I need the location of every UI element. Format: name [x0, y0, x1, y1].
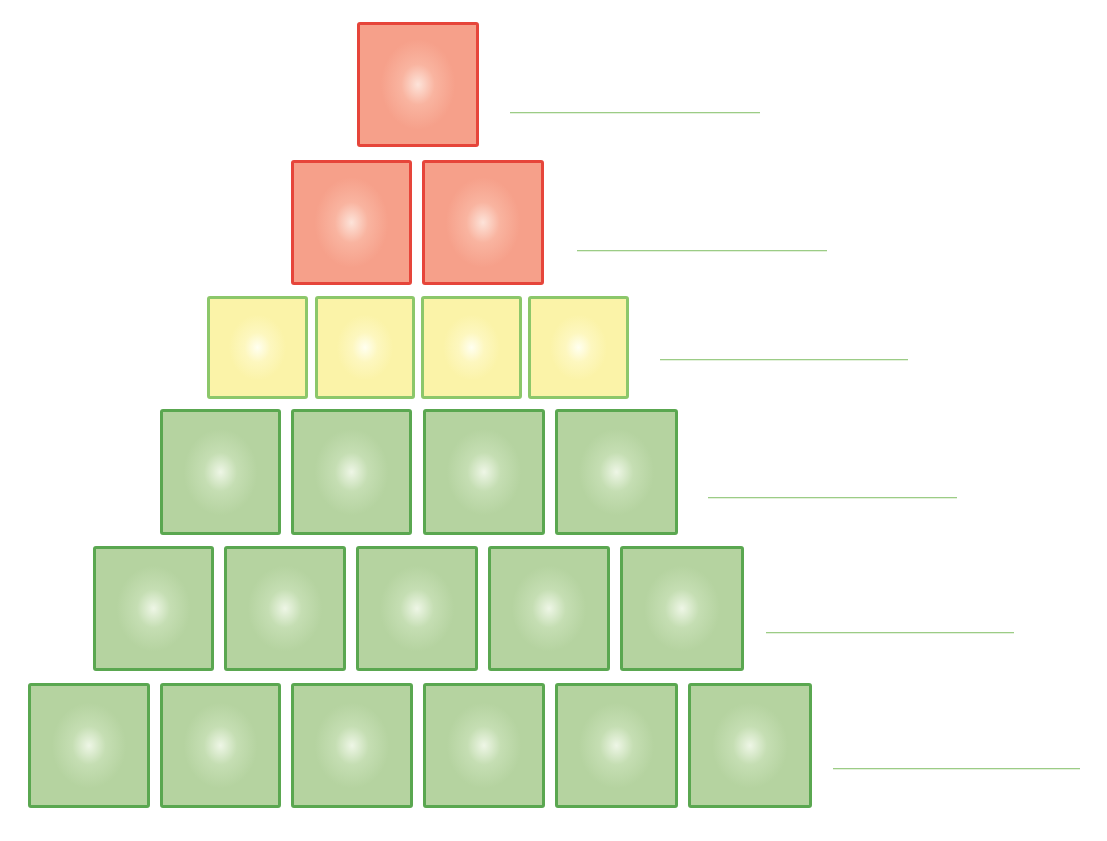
- green-block: [224, 546, 346, 671]
- green-block: [620, 546, 744, 671]
- green-block: [423, 409, 545, 535]
- red-block: [291, 160, 412, 285]
- green-block: [488, 546, 610, 671]
- green-block: [688, 683, 812, 808]
- green-block: [93, 546, 214, 671]
- green-block: [160, 409, 281, 535]
- block-pyramid: [0, 0, 1107, 841]
- yellow-block: [528, 296, 629, 399]
- yellow-block: [421, 296, 522, 399]
- red-block: [357, 22, 479, 147]
- answer-line: [577, 250, 827, 251]
- answer-line: [660, 359, 908, 360]
- green-block: [555, 409, 678, 535]
- green-block: [555, 683, 678, 808]
- answer-line: [510, 112, 760, 113]
- answer-line: [833, 768, 1080, 769]
- yellow-block: [315, 296, 415, 399]
- green-block: [160, 683, 281, 808]
- red-block: [422, 160, 544, 285]
- green-block: [291, 409, 412, 535]
- green-block: [28, 683, 150, 808]
- green-block: [423, 683, 545, 808]
- green-block: [291, 683, 413, 808]
- green-block: [356, 546, 478, 671]
- answer-line: [708, 497, 957, 498]
- yellow-block: [207, 296, 308, 399]
- answer-line: [766, 632, 1014, 633]
